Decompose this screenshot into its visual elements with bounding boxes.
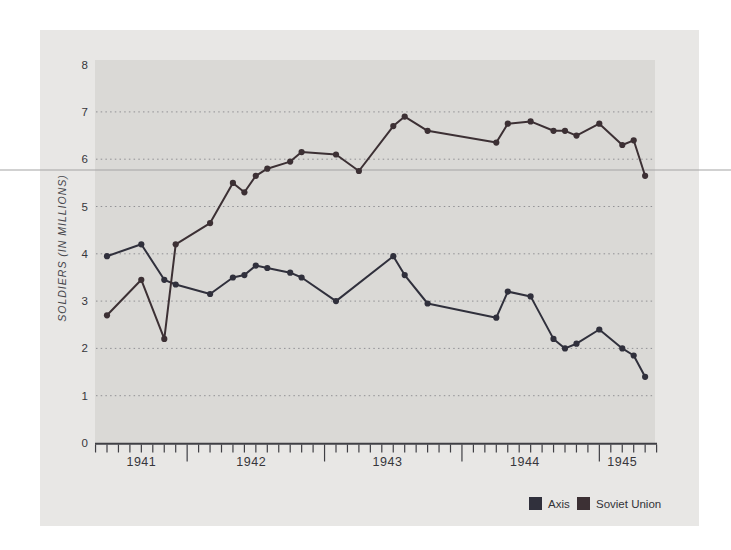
- soviet-union-data-point: [356, 168, 362, 174]
- x-axis-year-label: 1941: [126, 455, 156, 469]
- axis-data-point: [528, 293, 534, 299]
- axis-data-point: [207, 291, 213, 297]
- axis-data-point: [642, 374, 648, 380]
- soviet-union-data-point: [264, 166, 270, 172]
- soviet-union-data-point: [562, 128, 568, 134]
- soviet-union-data-point: [402, 114, 408, 120]
- y-axis-tick-labels: 012345678: [82, 59, 89, 449]
- y-axis-tick-label: 0: [82, 437, 88, 449]
- legend: Axis Soviet Union: [529, 497, 661, 510]
- axis-data-point: [550, 336, 556, 342]
- axis-data-point: [425, 300, 431, 306]
- axis-data-point: [333, 298, 339, 304]
- soviet-union-data-point: [493, 140, 499, 146]
- soviet-union-data-point: [573, 133, 579, 139]
- x-axis-year-label: 1944: [510, 455, 540, 469]
- soviet-union-data-point: [619, 142, 625, 148]
- axis-data-point: [173, 281, 179, 287]
- y-axis-tick-label: 7: [82, 106, 88, 118]
- y-axis-tick-label: 3: [82, 295, 88, 307]
- y-axis-tick-label: 8: [82, 59, 88, 71]
- soviet-union-data-point: [631, 137, 637, 143]
- axis-data-point: [505, 289, 511, 295]
- axis-data-point: [573, 341, 579, 347]
- axis-data-point: [104, 253, 110, 259]
- y-axis-tick-label: 4: [82, 248, 89, 260]
- axis-data-point: [619, 345, 625, 351]
- y-axis-title: SOLDIERS (IN MILLIONS): [56, 174, 68, 321]
- x-axis-year-label: 1945: [607, 455, 637, 469]
- plot-area: [95, 60, 655, 444]
- soviet-union-data-point: [138, 277, 144, 283]
- soviet-union-data-point: [596, 121, 602, 127]
- legend-label-soviet-union: Soviet Union: [596, 498, 661, 510]
- soviet-union-data-point: [299, 149, 305, 155]
- soviet-union-data-point: [550, 128, 556, 134]
- x-axis-year-label: 1942: [236, 455, 266, 469]
- axis-data-point: [138, 241, 144, 247]
- y-axis-tick-label: 1: [82, 390, 88, 402]
- soviet-union-data-point: [528, 118, 534, 124]
- axis-data-point: [264, 265, 270, 271]
- screenshot-root: 012345678 19411942194319441945 SOLDIERS …: [0, 0, 731, 550]
- axis-data-point: [299, 274, 305, 280]
- axis-data-point: [402, 272, 408, 278]
- axis-data-point: [596, 326, 602, 332]
- soviet-union-data-point: [104, 312, 110, 318]
- axis-data-point: [230, 274, 236, 280]
- soldiers-line-chart: 012345678 19411942194319441945 SOLDIERS …: [0, 0, 731, 550]
- soviet-union-data-point: [333, 151, 339, 157]
- axis-data-point: [562, 345, 568, 351]
- y-axis-tick-label: 6: [82, 153, 88, 165]
- axis-data-point: [161, 277, 167, 283]
- soviet-union-data-point: [230, 180, 236, 186]
- soviet-union-data-point: [287, 159, 293, 165]
- legend-label-axis: Axis: [548, 498, 570, 510]
- axis-data-point: [390, 253, 396, 259]
- soviet-union-data-point: [161, 336, 167, 342]
- y-axis-tick-label: 2: [82, 342, 88, 354]
- axis-data-point: [253, 263, 259, 269]
- legend-swatch-soviet-union: [577, 497, 590, 510]
- axis-data-point: [287, 270, 293, 276]
- soviet-union-data-point: [505, 121, 511, 127]
- soviet-union-data-point: [173, 241, 179, 247]
- soviet-union-data-point: [642, 173, 648, 179]
- soviet-union-data-point: [390, 123, 396, 129]
- x-axis-year-label: 1943: [373, 455, 403, 469]
- axis-data-point: [241, 272, 247, 278]
- soviet-union-data-point: [253, 173, 259, 179]
- soviet-union-data-point: [425, 128, 431, 134]
- axis-data-point: [631, 352, 637, 358]
- soviet-union-data-point: [241, 189, 247, 195]
- y-axis-tick-label: 5: [82, 201, 88, 213]
- axis-data-point: [493, 315, 499, 321]
- legend-swatch-axis: [529, 497, 542, 510]
- soviet-union-data-point: [207, 220, 213, 226]
